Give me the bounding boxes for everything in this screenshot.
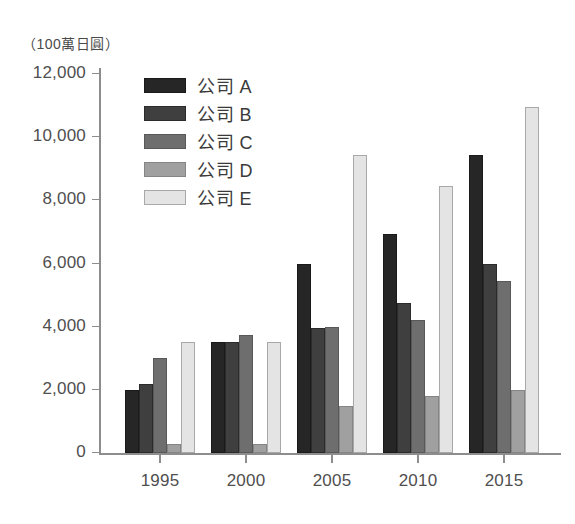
bar[interactable] bbox=[497, 281, 511, 453]
bar[interactable] bbox=[525, 107, 539, 453]
legend-swatch-icon bbox=[144, 134, 186, 149]
y-axis-tick-label: 4,000 bbox=[42, 316, 86, 336]
bar[interactable] bbox=[469, 155, 483, 453]
y-axis-tick: 8,000 bbox=[92, 199, 99, 200]
bar[interactable] bbox=[383, 234, 397, 454]
x-axis-tick bbox=[503, 455, 505, 463]
bar[interactable] bbox=[125, 390, 139, 453]
bar[interactable] bbox=[483, 264, 497, 454]
bar[interactable] bbox=[511, 390, 525, 453]
x-axis-tick-label: 2010 bbox=[399, 471, 438, 491]
y-axis-tick-label: 10,000 bbox=[33, 126, 86, 146]
x-axis-line bbox=[99, 453, 561, 455]
legend-item-label: 公司 D bbox=[197, 156, 253, 182]
bar[interactable] bbox=[311, 328, 325, 453]
bar[interactable] bbox=[211, 342, 225, 453]
x-axis-tick-label: 2005 bbox=[313, 471, 352, 491]
y-axis-tick: 6,000 bbox=[92, 263, 99, 264]
bar[interactable] bbox=[139, 384, 153, 453]
bar[interactable] bbox=[181, 342, 195, 453]
legend-item-label: 公司 B bbox=[197, 100, 252, 126]
y-axis-tick-label: 12,000 bbox=[33, 63, 86, 83]
bar[interactable] bbox=[225, 342, 239, 453]
y-axis-tick-label: 8,000 bbox=[42, 189, 86, 209]
legend-swatch-icon bbox=[144, 78, 186, 93]
legend-item[interactable]: 公司 E bbox=[144, 183, 253, 211]
x-axis-tick-label: 2015 bbox=[485, 471, 524, 491]
y-axis-tick-label: 0 bbox=[76, 442, 86, 462]
y-axis-tick: 12,000 bbox=[92, 73, 99, 74]
bar[interactable] bbox=[425, 396, 439, 453]
x-axis-tick bbox=[417, 455, 419, 463]
bar[interactable] bbox=[239, 335, 253, 453]
bar[interactable] bbox=[297, 264, 311, 454]
y-axis-tick-label: 2,000 bbox=[42, 379, 86, 399]
y-axis-tick: 10,000 bbox=[92, 136, 99, 137]
legend-item-label: 公司 E bbox=[197, 184, 252, 210]
legend-item-label: 公司 A bbox=[197, 72, 252, 98]
bar[interactable] bbox=[439, 186, 453, 453]
y-axis-tick-label: 6,000 bbox=[42, 253, 86, 273]
y-axis-tick: 2,000 bbox=[92, 389, 99, 390]
legend-swatch-icon bbox=[144, 162, 186, 177]
x-axis-tick bbox=[331, 455, 333, 463]
bar-group bbox=[383, 68, 453, 453]
legend-item[interactable]: 公司 D bbox=[144, 155, 253, 183]
y-axis-unit-label: （100萬日圓） bbox=[22, 33, 119, 53]
y-axis-line bbox=[99, 68, 101, 455]
bar-group bbox=[297, 68, 367, 453]
x-axis-tick bbox=[245, 455, 247, 463]
bar[interactable] bbox=[339, 406, 353, 453]
bar[interactable] bbox=[153, 358, 167, 453]
x-axis-tick bbox=[159, 455, 161, 463]
legend-swatch-icon bbox=[144, 106, 186, 121]
x-axis-tick-label: 1995 bbox=[141, 471, 180, 491]
y-axis-tick: 0 bbox=[92, 452, 99, 453]
bar[interactable] bbox=[253, 444, 267, 453]
y-axis-tick: 4,000 bbox=[92, 326, 99, 327]
bar[interactable] bbox=[353, 155, 367, 453]
chart-legend: 公司 A公司 B公司 C公司 D公司 E bbox=[144, 71, 253, 211]
bar[interactable] bbox=[325, 327, 339, 453]
legend-item[interactable]: 公司 A bbox=[144, 71, 253, 99]
bar-group bbox=[469, 68, 539, 453]
bar[interactable] bbox=[411, 320, 425, 453]
bar[interactable] bbox=[167, 444, 181, 453]
legend-item[interactable]: 公司 C bbox=[144, 127, 253, 155]
legend-item[interactable]: 公司 B bbox=[144, 99, 253, 127]
bar[interactable] bbox=[267, 342, 281, 453]
x-axis-tick-label: 2000 bbox=[227, 471, 266, 491]
legend-item-label: 公司 C bbox=[197, 128, 253, 154]
legend-swatch-icon bbox=[144, 190, 186, 205]
bar[interactable] bbox=[397, 303, 411, 453]
